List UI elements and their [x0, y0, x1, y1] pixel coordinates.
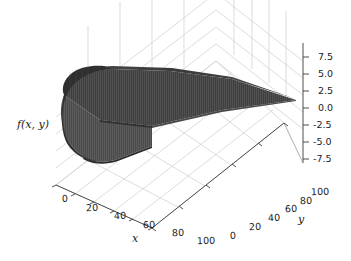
x-axis-title: x	[132, 233, 138, 244]
z-tick-label: 0.0	[318, 103, 333, 113]
y-tick-label: 0	[230, 231, 236, 241]
y-axis-line	[152, 123, 284, 228]
z-axis-ticks	[303, 57, 309, 159]
y-axis-title: y	[298, 214, 304, 225]
z-axis-title: f(x, y)	[17, 119, 49, 130]
y-tick-label: 60	[285, 204, 297, 214]
z-tick-label: 7.5	[318, 52, 333, 62]
x-tick-label: 40	[114, 211, 126, 221]
y-tick-label: 100	[311, 187, 329, 197]
x-tick-label: 100	[197, 236, 215, 246]
y-tick-label: 20	[249, 222, 261, 232]
x-axis-ticks	[52, 185, 152, 230]
y-tick-label: 40	[268, 213, 280, 223]
x-tick-label: 0	[62, 194, 68, 204]
x-tick-label: 80	[172, 228, 184, 238]
x-tick-label: 60	[143, 220, 155, 230]
surface-mesh	[61, 66, 296, 164]
z-tick-label: 2.5	[318, 86, 333, 96]
z-tick-label: -7.5	[313, 154, 332, 164]
x-tick-label: 20	[86, 203, 98, 213]
z-tick-label: 5.0	[318, 69, 333, 79]
z-tick-label: -5.0	[313, 137, 332, 147]
figure-3d-surface-plot: 0 20 40 60 80 100 0 20 40 60 80 100 7.5 …	[0, 0, 351, 261]
z-tick-label: -2.5	[313, 120, 332, 130]
x-axis-line	[56, 185, 152, 228]
